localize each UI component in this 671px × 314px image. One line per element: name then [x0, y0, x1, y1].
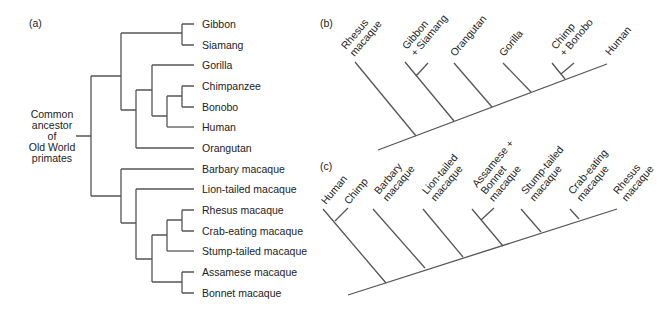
- svg-text:Gorilla: Gorilla: [496, 27, 525, 58]
- leaf-stump-tailed-macaque: Stump-tailed macaque: [202, 245, 307, 257]
- phylogeny-figure: (a) Common ancestor of Old World primate…: [0, 0, 671, 314]
- leaf-rhesus-macaque: Rhesus macaque: [202, 204, 284, 216]
- leaf-gorilla: Gorilla: [202, 59, 233, 71]
- panel-c-label: (c): [320, 160, 332, 172]
- leaf-bonobo: Bonobo: [202, 101, 238, 113]
- leaf-siamang: Siamang: [202, 39, 244, 51]
- panel-b-label: (b): [320, 17, 333, 29]
- leaf-barbary-macaque: Barbary macaque: [202, 163, 285, 175]
- root-label: Common ancestor of Old World primates: [29, 108, 76, 164]
- panel-a-tree: (a) Common ancestor of Old World primate…: [29, 17, 307, 299]
- leaf-lion-tailed-macaque: Lion-tailed macaque: [202, 183, 297, 195]
- leaf-orangutan: Orangutan: [202, 142, 252, 154]
- leaf-gibbon: Gibbon: [202, 18, 236, 30]
- leaf-assamese-macaque: Assamese macaque: [202, 266, 297, 278]
- leaf-chimpanzee: Chimpanzee: [202, 80, 261, 92]
- panel-b-taxa-labels: Rhesus macaque Gibbon + Siamang Oranguta…: [338, 5, 633, 59]
- svg-text:primates: primates: [32, 152, 72, 164]
- svg-text:Orangutan: Orangutan: [447, 12, 488, 58]
- leaf-human: Human: [202, 121, 236, 133]
- leaf-bonnet-macaque: Bonnet macaque: [202, 287, 282, 299]
- svg-text:Human: Human: [602, 24, 633, 58]
- leaf-crab-eating-macaque: Crab-eating macaque: [202, 225, 303, 237]
- panel-a-label: (a): [29, 17, 42, 29]
- panel-c-taxa-labels: Human Chimp Barbary macaque Lion-tailed …: [318, 137, 655, 206]
- panel-b-tree: (b) Rhesus macaque Gibbon + Siamang Oran…: [320, 5, 633, 150]
- panel-c-tree: (c) Human Chimp Barbary macaque Lion-tai…: [318, 137, 655, 295]
- tree-branches: [76, 24, 194, 293]
- leaf-labels: Gibbon Siamang Gorilla Chimpanzee Bonobo…: [202, 18, 307, 299]
